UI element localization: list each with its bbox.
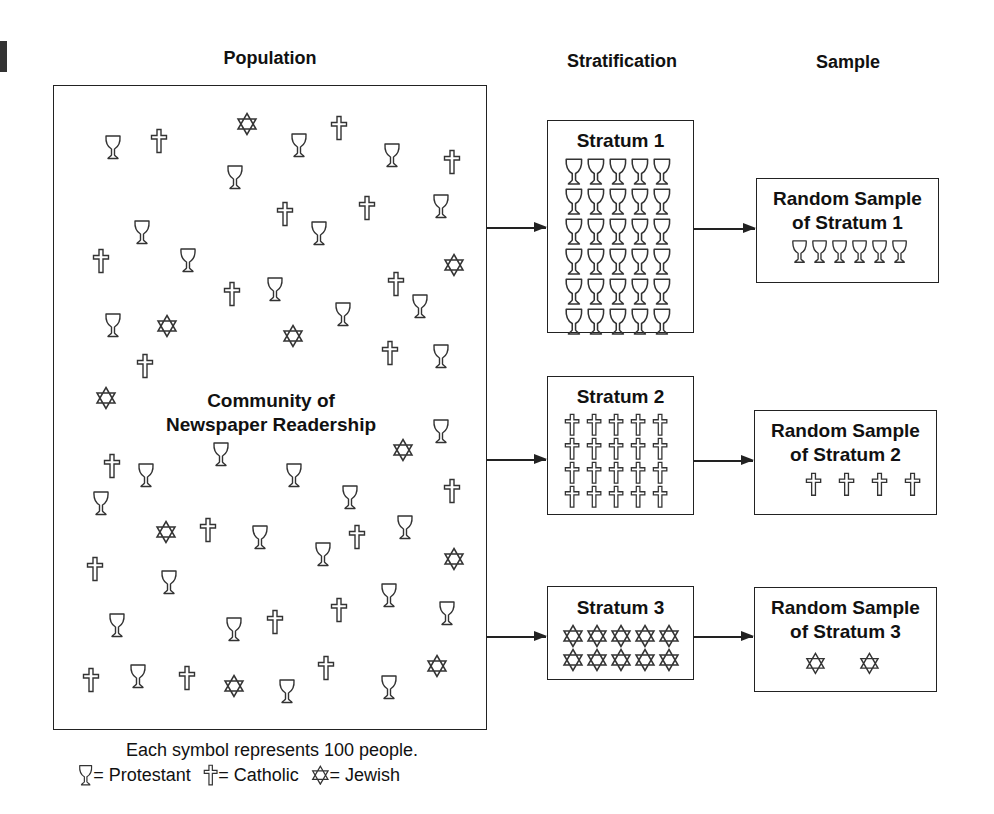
population-label-line2: Newspaper Readership: [166, 413, 376, 437]
cross-icon: [136, 353, 154, 383]
goblet-icon: [851, 239, 871, 267]
goblet-icon: [129, 663, 147, 693]
goblet-icon: [314, 541, 332, 571]
goblet-icon: [791, 239, 811, 267]
goblet-icon: [212, 441, 230, 471]
header-sample: Sample: [816, 52, 880, 73]
cross-icon: [266, 609, 284, 639]
stratum-1-box: Stratum 1: [547, 120, 694, 333]
goblet-icon: [630, 217, 652, 247]
cross-icon: [381, 340, 399, 370]
legend-jewish: = Jewish: [311, 765, 400, 786]
goblet-icon: [108, 612, 126, 642]
cross-icon: [586, 413, 608, 437]
stratum-1-title: Stratum 1: [548, 130, 693, 152]
cross-icon: [330, 597, 348, 627]
cross-icon: [330, 115, 348, 145]
cross-icon: [103, 453, 121, 483]
cross-icon: [443, 149, 461, 179]
stratum-3-title: Stratum 3: [548, 597, 693, 619]
sample-2-title-line1: Random Sample: [755, 420, 936, 442]
goblet-icon: [104, 312, 122, 342]
goblet-icon: [608, 217, 630, 247]
sample-1-box: Random Sample of Stratum 1: [756, 178, 939, 283]
goblet-icon: [608, 277, 630, 307]
arrow-population-to-stratum-3: [487, 636, 546, 638]
legend-protestant-label: = Protestant: [93, 765, 191, 786]
legend-catholic: = Catholic: [203, 764, 299, 786]
goblet-icon: [564, 157, 586, 187]
stratum-2-box: Stratum 2: [547, 376, 694, 515]
goblet-icon: [652, 217, 674, 247]
sample-2-symbols: [805, 472, 937, 500]
cross-icon: [586, 437, 608, 461]
star-of-david-icon: [156, 314, 178, 342]
goblet-icon: [341, 484, 359, 514]
cross-icon: [276, 201, 294, 231]
cross-icon: [443, 478, 461, 508]
goblet-icon: [225, 616, 243, 646]
sample-3-symbols: [805, 652, 913, 680]
star-of-david-icon: [805, 652, 859, 680]
goblet-icon: [586, 217, 608, 247]
cross-icon: [564, 437, 586, 461]
cross-icon: [652, 485, 674, 509]
cross-icon: [630, 437, 652, 461]
cross-icon: [805, 472, 838, 500]
goblet-icon: [92, 490, 110, 520]
cross-icon: [317, 655, 335, 685]
goblet-icon: [438, 600, 456, 630]
goblet-icon: [251, 524, 269, 554]
star-of-david-icon: [311, 765, 330, 785]
goblet-icon: [630, 187, 652, 217]
goblet-icon: [652, 187, 674, 217]
cross-icon: [652, 437, 674, 461]
arrow-population-to-stratum-1: [487, 227, 546, 229]
goblet-icon: [432, 343, 450, 373]
star-of-david-icon: [443, 253, 465, 281]
star-of-david-icon: [586, 648, 610, 672]
goblet-icon: [652, 157, 674, 187]
cross-icon: [586, 461, 608, 485]
goblet-icon: [285, 462, 303, 492]
legend-catholic-label: = Catholic: [218, 765, 299, 786]
star-of-david-icon: [562, 624, 586, 648]
goblet-icon: [630, 247, 652, 277]
stratum-2-title: Stratum 2: [548, 386, 693, 408]
goblet-icon: [630, 277, 652, 307]
goblet-icon: [411, 293, 429, 323]
star-of-david-icon: [610, 648, 634, 672]
cross-icon: [387, 271, 405, 301]
star-of-david-icon: [634, 624, 658, 648]
star-of-david-icon: [859, 652, 913, 680]
goblet-icon: [380, 582, 398, 612]
goblet-icon: [564, 307, 586, 337]
cross-icon: [348, 524, 366, 554]
goblet-icon: [608, 187, 630, 217]
goblet-icon: [630, 307, 652, 337]
star-of-david-icon: [236, 112, 258, 140]
star-of-david-icon: [562, 648, 586, 672]
arrow-stratum-3-to-sample-3: [694, 636, 753, 638]
cross-icon: [178, 665, 196, 695]
population-label: Community of Newspaper Readership: [166, 389, 376, 437]
header-stratification: Stratification: [567, 51, 677, 72]
goblet-icon: [278, 678, 296, 708]
star-of-david-icon: [426, 654, 448, 682]
goblet-icon: [564, 277, 586, 307]
sample-3-box: Random Sample of Stratum 3: [754, 587, 937, 692]
goblet-icon: [160, 569, 178, 599]
sample-3-title-line1: Random Sample: [755, 597, 936, 619]
goblet-icon: [586, 187, 608, 217]
star-of-david-icon: [658, 624, 682, 648]
goblet-icon: [334, 301, 352, 331]
goblet-icon: [564, 187, 586, 217]
cross-icon: [86, 556, 104, 586]
star-of-david-icon: [443, 547, 465, 575]
goblet-icon: [266, 276, 284, 306]
goblet-icon: [652, 277, 674, 307]
population-label-line1: Community of: [166, 389, 376, 413]
legend-jewish-label: = Jewish: [329, 765, 400, 786]
cross-icon: [652, 413, 674, 437]
cross-icon: [871, 472, 904, 500]
